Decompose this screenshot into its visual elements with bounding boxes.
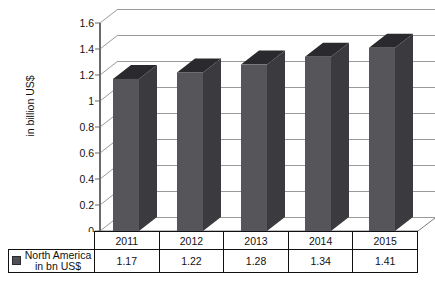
bar-2012 <box>177 58 221 231</box>
table-row-values: North Americain bn US$ 1.17 1.22 1.28 1.… <box>9 250 418 273</box>
category-2014: 2014 <box>288 232 353 250</box>
category-2011: 2011 <box>95 232 160 250</box>
table-corner-blank <box>9 232 95 250</box>
y-tick-0-4: 0.4 <box>60 174 94 185</box>
data-table-wrap: 2011 2012 2013 2014 2015 North Americain… <box>8 231 418 273</box>
value-2013: 1.28 <box>224 250 289 273</box>
y-tick-1-0: 1 <box>60 96 94 107</box>
bar-2011-side <box>139 65 157 231</box>
bar-2011 <box>113 65 157 231</box>
value-2011: 1.17 <box>95 250 160 273</box>
data-table: 2011 2012 2013 2014 2015 North Americain… <box>8 231 418 273</box>
value-2012: 1.22 <box>159 250 224 273</box>
y-tick-1-6: 1.6 <box>60 18 94 29</box>
category-2015: 2015 <box>353 232 418 250</box>
chart-root: 1.6 1.4 1.2 1 0.8 0.6 0.4 0.2 0 in billi… <box>0 0 435 287</box>
y-axis-tick-labels: 1.6 1.4 1.2 1 0.8 0.6 0.4 0.2 0 <box>54 0 94 240</box>
bar-2013 <box>241 51 285 231</box>
bar-2015-front <box>369 48 395 231</box>
category-2013: 2013 <box>224 232 289 250</box>
series-swatch-icon <box>12 256 21 265</box>
value-2015: 1.41 <box>353 250 418 273</box>
legend-label: North Americain bn US$ <box>25 250 92 272</box>
bar-2013-side <box>267 51 285 231</box>
legend-entry: North Americain bn US$ <box>9 250 95 273</box>
category-2012: 2012 <box>159 232 224 250</box>
y-tick-1-2: 1.2 <box>60 70 94 81</box>
y-tick-0-2: 0.2 <box>60 200 94 211</box>
y-tick-1-4: 1.4 <box>60 44 94 55</box>
value-2014: 1.34 <box>288 250 353 273</box>
y-axis-title: in billion US$ <box>24 46 36 166</box>
bar-2014 <box>305 43 349 231</box>
bar-2013-front <box>241 65 267 231</box>
y-tick-0-8: 0.8 <box>60 122 94 133</box>
table-row-categories: 2011 2012 2013 2014 2015 <box>9 232 418 250</box>
bar-2015-side <box>395 34 413 231</box>
bar-2012-front <box>177 72 203 231</box>
legend-label-line2: in bn US$ <box>25 261 92 272</box>
y-tick-0-6: 0.6 <box>60 148 94 159</box>
bar-2011-front <box>113 79 139 231</box>
y-axis-ticks <box>95 23 100 231</box>
bar-2014-side <box>331 43 349 231</box>
bar-2015 <box>369 34 413 231</box>
bar-2014-front <box>305 57 331 231</box>
bar-2012-side <box>203 58 221 231</box>
